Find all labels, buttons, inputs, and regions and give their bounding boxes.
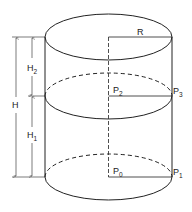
- label-R: R: [137, 27, 144, 37]
- label-P1: P1: [173, 167, 183, 179]
- label-H: H: [12, 100, 19, 110]
- label-H2: H2: [27, 63, 38, 75]
- label-P0: P0: [113, 166, 123, 178]
- label-P2: P2: [113, 85, 123, 97]
- cylinder-diagram: R H H2 H1 P2 P3 P0 P1: [0, 0, 192, 212]
- label-H1: H1: [27, 130, 38, 142]
- label-P3: P3: [173, 86, 183, 98]
- bottom-ellipse-front: [45, 177, 172, 200]
